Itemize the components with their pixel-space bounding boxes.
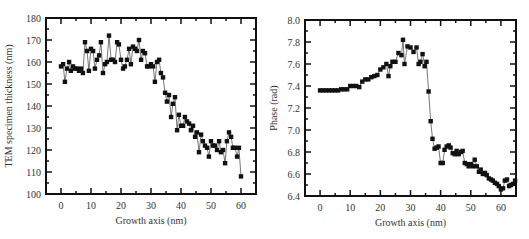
y-tick-label: 150 (26, 79, 41, 90)
data-point (143, 51, 147, 55)
x-tick-label: 40 (436, 202, 446, 213)
data-point (479, 167, 483, 171)
data-point (167, 93, 171, 97)
phase-plot: 01020304050606.46.66.87.07.27.47.67.88.0… (265, 0, 529, 239)
data-point (197, 150, 201, 154)
data-point (205, 146, 209, 150)
data-point (123, 64, 127, 68)
data-point (235, 154, 239, 158)
y-axis-label: TEM specimen thickness (nm) (3, 44, 15, 167)
data-point (375, 73, 379, 77)
data-point (101, 71, 105, 75)
y-tick-label: 6.8 (288, 147, 301, 158)
data-point (173, 95, 177, 99)
series-line (61, 36, 241, 177)
data-point (239, 174, 243, 178)
data-point (436, 144, 440, 148)
x-tick-label: 0 (59, 200, 64, 211)
y-tick-label: 7.2 (288, 103, 301, 114)
data-point (105, 60, 109, 64)
data-point (85, 49, 89, 53)
data-point (388, 64, 392, 68)
data-point (153, 80, 157, 84)
data-point (505, 177, 509, 181)
x-tick-label: 50 (466, 202, 476, 213)
y-tick-label: 6.4 (288, 191, 301, 202)
data-point (513, 178, 517, 182)
data-point (237, 146, 241, 150)
y-tick-label: 8.0 (288, 15, 301, 26)
data-point (420, 52, 424, 56)
y-axis-label: Phase (rad) (268, 85, 280, 130)
data-point (213, 143, 217, 147)
y-tick-label: 100 (26, 189, 41, 200)
data-point (151, 64, 155, 68)
data-point (79, 66, 83, 70)
data-point (183, 115, 187, 119)
data-point (81, 71, 85, 75)
thickness-chart: 0102030405060100110120130140150160170180… (0, 0, 265, 239)
data-point (119, 58, 123, 62)
data-point (207, 154, 211, 158)
data-point (169, 115, 173, 119)
x-tick-label: 40 (176, 200, 186, 211)
data-point (175, 128, 179, 132)
data-point (448, 145, 452, 149)
data-point (229, 135, 233, 139)
data-point (215, 148, 219, 152)
data-point (187, 121, 191, 125)
data-point (399, 53, 403, 57)
x-tick-label: 10 (86, 200, 96, 211)
y-tick-label: 120 (26, 145, 41, 156)
y-tick-label: 170 (26, 35, 41, 46)
data-point (65, 66, 69, 70)
data-point (181, 124, 185, 128)
x-tick-label: 10 (345, 202, 355, 213)
data-point (161, 75, 165, 79)
data-point (408, 45, 412, 49)
data-point (424, 60, 428, 64)
data-point (113, 60, 117, 64)
data-point (191, 124, 195, 128)
data-point (501, 186, 505, 190)
data-point (193, 135, 197, 139)
data-point (393, 60, 397, 64)
y-tick-label: 7.8 (288, 37, 301, 48)
data-point (137, 38, 141, 42)
x-tick-label: 60 (236, 200, 246, 211)
data-point (227, 130, 231, 134)
data-point (129, 62, 133, 66)
x-tick-label: 60 (496, 202, 506, 213)
y-tick-label: 180 (26, 13, 41, 24)
data-point (117, 42, 121, 46)
y-tick-label: 140 (26, 101, 41, 112)
x-tick-label: 20 (375, 202, 385, 213)
data-point (97, 53, 101, 57)
data-point (189, 128, 193, 132)
data-point (414, 45, 418, 49)
phase-chart: 01020304050606.46.66.87.07.27.47.67.88.0… (265, 0, 529, 239)
x-tick-label: 20 (116, 200, 126, 211)
data-point (428, 119, 432, 123)
data-point (426, 89, 430, 93)
data-point (171, 102, 175, 106)
data-point (422, 64, 426, 68)
x-tick-label: 30 (146, 200, 156, 211)
y-tick-label: 7.6 (288, 59, 301, 70)
data-point (475, 164, 479, 168)
data-point (471, 164, 475, 168)
data-point (386, 74, 390, 78)
data-point (209, 139, 213, 143)
data-point (67, 60, 71, 64)
data-point (441, 161, 445, 165)
x-tick-label: 30 (406, 202, 416, 213)
data-point (221, 148, 225, 152)
data-point (159, 71, 163, 75)
data-point (460, 149, 464, 153)
data-point (63, 80, 67, 84)
data-point (83, 40, 87, 44)
plot-frame (46, 18, 256, 194)
data-point (233, 146, 237, 150)
data-point (357, 85, 361, 89)
data-point (61, 62, 65, 66)
